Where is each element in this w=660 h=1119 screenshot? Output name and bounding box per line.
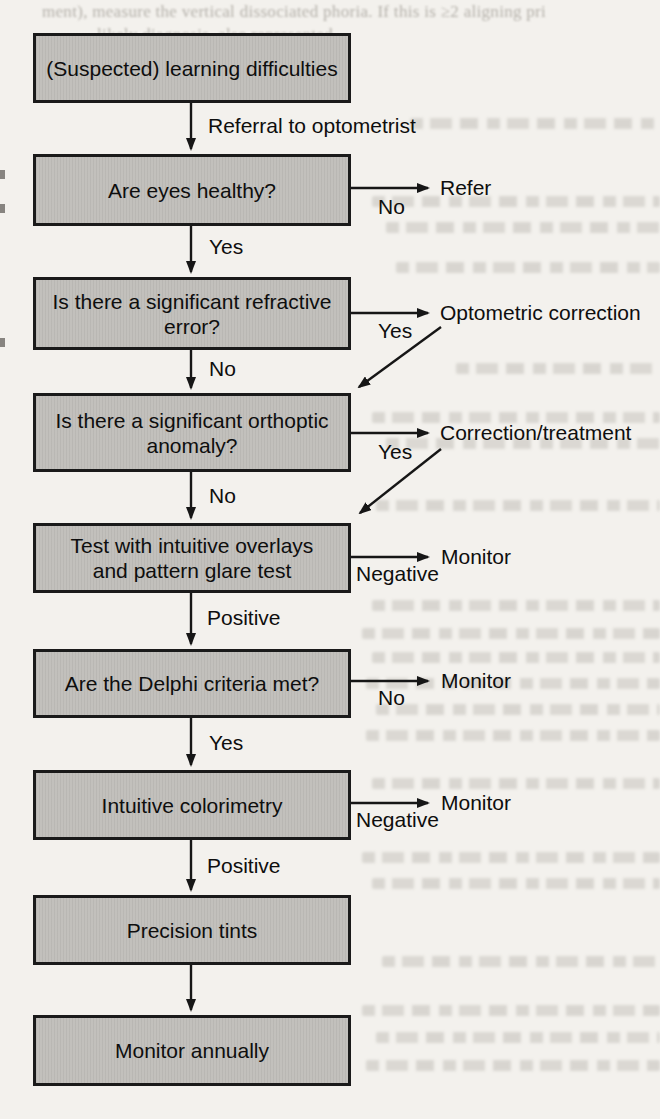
edge-label-no-refractive: No bbox=[209, 357, 236, 381]
flowbox-precision-tints: Precision tints bbox=[33, 895, 351, 965]
flowbox-label: Is there a significant refractive bbox=[53, 289, 332, 314]
flowbox-eyes-healthy: Are eyes healthy? bbox=[33, 154, 351, 226]
flowbox-label: Intuitive colorimetry bbox=[102, 793, 283, 818]
flowbox-learning-difficulties: (Suspected) learning difficulties bbox=[33, 33, 351, 103]
edge-label-negative-overlays: Negative bbox=[356, 562, 439, 586]
flowbox-label: error? bbox=[164, 314, 220, 339]
flowbox-label: Are the Delphi criteria met? bbox=[65, 671, 319, 696]
flowbox-label: Test with intuitive overlays bbox=[71, 533, 314, 558]
edge-label-yes-eyes: Yes bbox=[209, 235, 243, 259]
flowbox-label: Is there a significant orthoptic bbox=[55, 408, 328, 433]
flowbox-overlays-pattern-glare: Test with intuitive overlays and pattern… bbox=[33, 523, 351, 593]
outcome-refer: Refer bbox=[440, 176, 491, 200]
edge-label-no-delphi: No bbox=[378, 686, 405, 710]
edge-label-yes-delphi: Yes bbox=[209, 731, 243, 755]
scanned-page: ment), measure the vertical dissociated … bbox=[0, 0, 660, 1119]
outcome-correction-treatment: Correction/treatment bbox=[440, 421, 631, 445]
outcome-optometric-correction: Optometric correction bbox=[440, 301, 641, 325]
flowbox-label: (Suspected) learning difficulties bbox=[46, 56, 337, 81]
flowbox-label: Are eyes healthy? bbox=[108, 178, 276, 203]
edge-label-no-eyes: No bbox=[378, 195, 405, 219]
edge-label-yes-refractive: Yes bbox=[378, 319, 412, 343]
edge-label-no-orthoptic: No bbox=[209, 484, 236, 508]
flowbox-label: Monitor annually bbox=[115, 1038, 269, 1063]
edge-label-yes-orthoptic: Yes bbox=[378, 440, 412, 464]
flowbox-monitor-annually: Monitor annually bbox=[33, 1015, 351, 1086]
flowbox-refractive-error: Is there a significant refractive error? bbox=[33, 277, 351, 350]
outcome-monitor-colorimetry: Monitor bbox=[441, 791, 511, 815]
flowbox-label: anomaly? bbox=[146, 433, 237, 458]
flowbox-label: and pattern glare test bbox=[93, 558, 291, 583]
flowbox-label: Precision tints bbox=[127, 918, 258, 943]
edge-label-positive-colorimetry: Positive bbox=[207, 854, 281, 878]
outcome-monitor-overlays: Monitor bbox=[441, 545, 511, 569]
flowbox-delphi-criteria: Are the Delphi criteria met? bbox=[33, 649, 351, 718]
flowbox-orthoptic-anomaly: Is there a significant orthoptic anomaly… bbox=[33, 393, 351, 472]
edge-label-positive-overlays: Positive bbox=[207, 606, 281, 630]
outcome-monitor-delphi: Monitor bbox=[441, 669, 511, 693]
edge-label-negative-colorimetry: Negative bbox=[356, 808, 439, 832]
flowbox-intuitive-colorimetry: Intuitive colorimetry bbox=[33, 770, 351, 840]
edge-label-referral: Referral to optometrist bbox=[208, 114, 416, 138]
